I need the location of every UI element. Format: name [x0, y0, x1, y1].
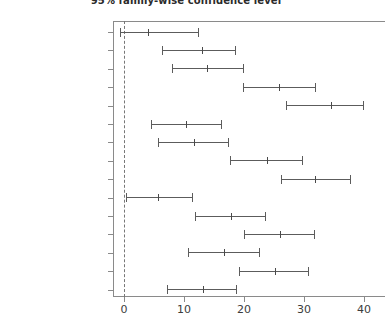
mean-difference-marker: [275, 268, 276, 275]
confidence-interval-row: [167, 284, 237, 295]
confidence-interval-upper-cap: [308, 267, 309, 276]
confidence-interval-row: [244, 229, 314, 240]
confidence-interval-upper-cap: [192, 193, 193, 202]
confidence-interval-upper-cap: [350, 175, 351, 184]
mean-difference-marker: [194, 139, 195, 146]
mean-difference-marker: [148, 29, 149, 36]
x-axis-tick-label: 0: [109, 303, 139, 316]
confidence-interval-lower-cap: [172, 64, 173, 73]
confidence-interval-lower-cap: [120, 28, 121, 37]
confidence-interval-upper-cap: [221, 120, 222, 129]
confidence-interval-lower-cap: [281, 175, 282, 184]
mean-difference-marker: [186, 121, 187, 128]
confidence-interval-row: [188, 247, 259, 258]
mean-difference-marker: [202, 47, 203, 54]
confidence-interval-row: [243, 82, 315, 93]
confidence-interval-bar: [162, 50, 235, 51]
confidence-interval-row: [195, 211, 265, 222]
x-axis-tick-label: 20: [229, 303, 259, 316]
confidence-interval-row: [126, 192, 193, 203]
confidence-interval-lower-cap: [151, 120, 152, 129]
mean-difference-marker: [158, 194, 159, 201]
mean-difference-marker: [207, 65, 208, 72]
mean-difference-marker: [279, 84, 280, 91]
confidence-interval-row: [151, 119, 221, 130]
plot-area: [113, 21, 372, 297]
confidence-interval-upper-cap: [363, 101, 364, 110]
mean-difference-marker: [267, 157, 268, 164]
x-axis-tick-label: 40: [349, 303, 379, 316]
confidence-interval-lower-cap: [230, 156, 231, 165]
confidence-interval-lower-cap: [239, 267, 240, 276]
confidence-interval-lower-cap: [243, 83, 244, 92]
mean-difference-marker: [315, 176, 316, 183]
confidence-interval-bar: [126, 197, 193, 198]
confidence-interval-lower-cap: [195, 212, 196, 221]
x-axis-tick: [184, 297, 185, 302]
confidence-interval-row: [239, 266, 309, 277]
confidence-interval-upper-cap: [236, 285, 237, 294]
confidence-interval-upper-cap: [243, 64, 244, 73]
confidence-interval-upper-cap: [315, 83, 316, 92]
confidence-interval-lower-cap: [167, 285, 168, 294]
confidence-interval-upper-cap: [198, 28, 199, 37]
zero-reference-line: [124, 21, 125, 297]
mean-difference-marker: [203, 286, 204, 293]
x-axis-tick-label: 10: [169, 303, 199, 316]
x-axis-tick: [364, 297, 365, 302]
confidence-interval-lower-cap: [244, 230, 245, 239]
confidence-interval-bar: [167, 289, 237, 290]
confidence-interval-bar: [286, 105, 363, 106]
confidence-interval-bar: [239, 271, 309, 272]
confidence-interval-row: [120, 27, 198, 38]
confidence-interval-row: [281, 174, 350, 185]
confidence-interval-row: [158, 137, 229, 148]
x-axis-tick: [124, 297, 125, 302]
confidence-interval-lower-cap: [158, 138, 159, 147]
confidence-interval-upper-cap: [314, 230, 315, 239]
confidence-interval-lower-cap: [126, 193, 127, 202]
confidence-interval-upper-cap: [302, 156, 303, 165]
confidence-interval-row: [162, 45, 235, 56]
mean-difference-marker: [331, 102, 332, 109]
confidence-interval-upper-cap: [228, 138, 229, 147]
mean-difference-marker: [224, 249, 225, 256]
mean-difference-marker: [231, 213, 232, 220]
confidence-interval-bar: [120, 32, 198, 33]
x-axis-tick: [304, 297, 305, 302]
confidence-interval-lower-cap: [188, 248, 189, 257]
x-axis-tick-label: 30: [289, 303, 319, 316]
x-axis: 010203040: [0, 297, 372, 320]
confidence-interval-lower-cap: [162, 46, 163, 55]
confidence-interval-row: [172, 63, 243, 74]
mean-difference-marker: [280, 231, 281, 238]
confidence-interval-upper-cap: [259, 248, 260, 257]
confidence-interval-row: [230, 155, 301, 166]
confidence-interval-row: [286, 100, 363, 111]
confidence-interval-upper-cap: [265, 212, 266, 221]
chart-title: 95% family-wise confidence level: [0, 0, 372, 6]
confidence-interval-upper-cap: [235, 46, 236, 55]
x-axis-tick: [244, 297, 245, 302]
confidence-interval-lower-cap: [286, 101, 287, 110]
